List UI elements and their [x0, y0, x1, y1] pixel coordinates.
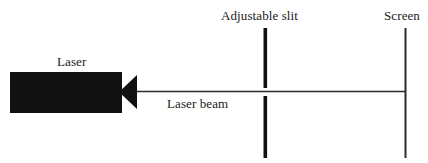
- adjustable-slit-label: Adjustable slit: [221, 8, 298, 23]
- laser-housing: [10, 72, 122, 113]
- laser-beam-label: Laser beam: [167, 96, 228, 111]
- slit-blade-lower: [264, 96, 268, 158]
- diagram-canvas: [0, 0, 428, 163]
- screen-label: Screen: [384, 8, 420, 23]
- laser-diffraction-diagram: Laser Laser beam Adjustable slit Screen: [0, 0, 428, 163]
- slit-blade-upper: [264, 28, 268, 88]
- laser-label: Laser: [57, 54, 86, 69]
